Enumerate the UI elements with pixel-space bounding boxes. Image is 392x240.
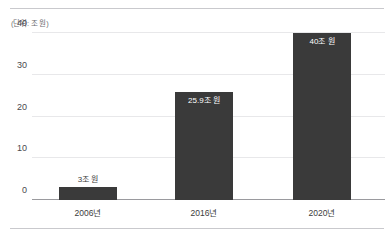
bar[interactable] — [293, 33, 351, 200]
chart-plot-area: 010203040 3조 원2006년25.9조 원2016년40조 원2020… — [32, 33, 385, 200]
bar-group[interactable]: 3조 원2006년 — [59, 33, 117, 200]
bar-value-label: 40조 원 — [293, 35, 351, 46]
y-axis-tick-label: 40 — [17, 18, 27, 28]
bar-group[interactable]: 25.9조 원2016년 — [175, 33, 233, 200]
x-axis-category-label: 2020년 — [271, 206, 373, 218]
y-axis-tick-label: 30 — [17, 60, 27, 70]
x-axis-category-label: 2006년 — [37, 206, 139, 218]
bar-value-label: 25.9조 원 — [175, 94, 233, 105]
bar-group[interactable]: 40조 원2020년 — [293, 33, 351, 200]
bar-value-label: 3조 원 — [59, 173, 117, 184]
bottom-divider — [10, 228, 384, 229]
x-axis-category-label: 2016년 — [153, 206, 255, 218]
bar[interactable] — [59, 187, 117, 200]
y-axis-tick-label: 0 — [22, 185, 27, 195]
bar[interactable] — [175, 92, 233, 200]
y-axis-tick-label: 10 — [17, 143, 27, 153]
top-divider — [10, 8, 384, 9]
y-axis-tick-label: 20 — [17, 102, 27, 112]
bar-series: 3조 원2006년25.9조 원2016년40조 원2020년 — [32, 33, 385, 200]
